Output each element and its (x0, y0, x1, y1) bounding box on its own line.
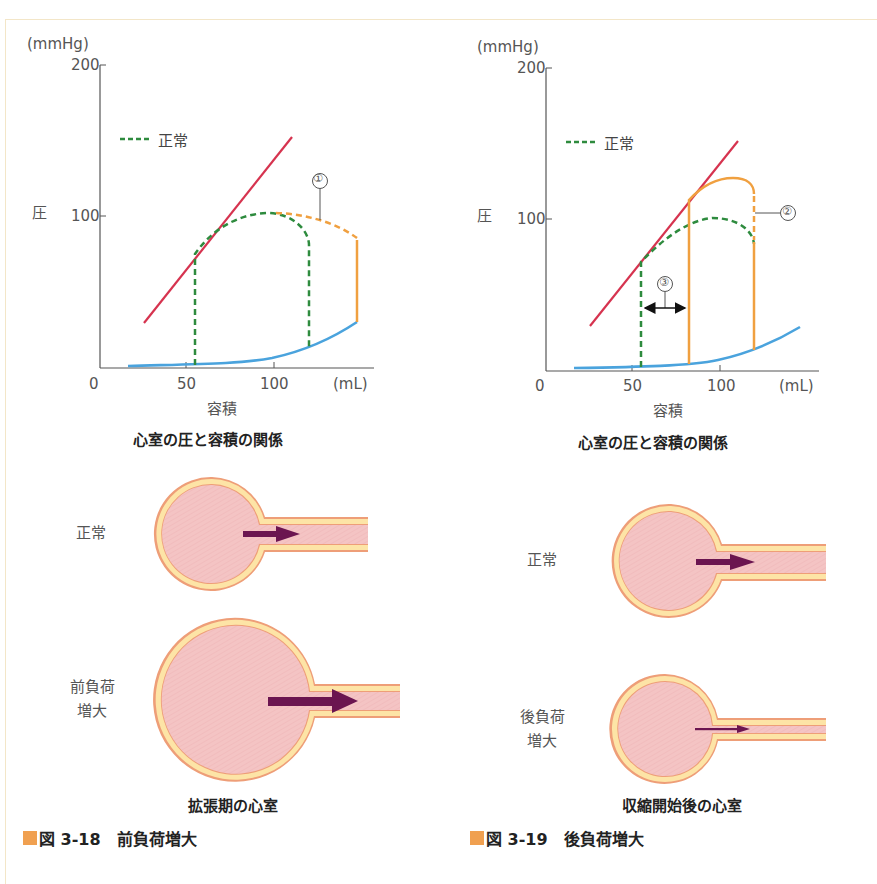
y-axis-unit: (mmHg) (477, 38, 539, 56)
annotation-3-label: ③ (659, 276, 669, 289)
x-tick-label-50: 50 (623, 377, 642, 395)
x-axis-unit: (mL) (333, 375, 368, 393)
chart-subcaption-preload: 心室の圧と容積の関係 (133, 428, 283, 449)
preload-loop-dashed (276, 213, 357, 238)
figure-number: 図 3-19 (486, 826, 548, 850)
x-tick-label-0: 0 (535, 377, 545, 395)
ventricle-preload-increased (153, 618, 400, 782)
edpvr-curve (128, 322, 357, 366)
row-label-preload-line1: 前負荷 (70, 676, 115, 698)
y-tick-label-100: 100 (71, 207, 100, 225)
x-axis-label: 容積 (653, 399, 683, 420)
diagram-subcaption-afterload: 収縮開始後の心室 (622, 794, 742, 815)
figure-caption-3-18: 図 3-18 前負荷増大 (23, 826, 197, 850)
caption-square-icon (470, 831, 484, 845)
chart-afterload (546, 68, 819, 371)
espvr-line (590, 141, 738, 326)
chart-preload (100, 65, 374, 368)
caption-square-icon (23, 831, 37, 845)
figure-title: 前負荷増大 (117, 826, 197, 850)
ventricle-normal-right (612, 504, 826, 618)
x-tick-label-100: 100 (260, 375, 289, 393)
diagram-subcaption-preload: 拡張期の心室 (188, 794, 278, 815)
edpvr-curve (574, 327, 800, 368)
figure-canvas (0, 0, 877, 884)
y-axis-unit: (mmHg) (27, 35, 89, 53)
annotation-2-label: ② (782, 205, 792, 218)
legend-normal-label: 正常 (604, 132, 634, 153)
figure-number: 図 3-18 (39, 826, 101, 850)
legend-normal-label: 正常 (158, 129, 188, 150)
x-tick-label-100: 100 (707, 377, 736, 395)
y-tick-label-100: 100 (517, 210, 546, 228)
row-label-normal: 正常 (76, 522, 106, 544)
figure-caption-3-19: 図 3-19 後負荷増大 (470, 826, 644, 850)
x-tick-label-0: 0 (89, 375, 99, 393)
x-axis-label: 容積 (207, 397, 237, 418)
y-tick-label-200: 200 (71, 56, 100, 74)
figure-title: 後負荷増大 (564, 826, 644, 850)
chart-subcaption-afterload: 心室の圧と容積の関係 (578, 431, 728, 452)
row-label-afterload-line1: 後負荷 (520, 706, 565, 728)
ventricle-normal-left (154, 477, 368, 591)
row-label-preload-line2: 増大 (77, 700, 107, 722)
x-tick-label-50: 50 (177, 375, 196, 393)
row-label-afterload-line2: 増大 (527, 730, 557, 752)
y-axis-label: 圧 (477, 204, 492, 225)
y-axis-label: 圧 (32, 201, 47, 222)
annotation-1-label: ① (313, 172, 323, 185)
x-axis-unit: (mL) (779, 377, 814, 395)
y-tick-label-200: 200 (517, 59, 546, 77)
afterload-loop (689, 178, 754, 364)
ventricle-afterload-increased (609, 674, 826, 784)
row-label-normal: 正常 (527, 549, 557, 571)
